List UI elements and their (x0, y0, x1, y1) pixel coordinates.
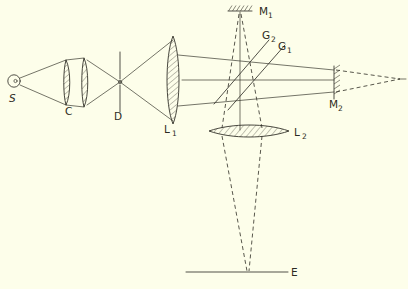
optical-diagram-canvas: S C D L 1 L 2 M 1 M 2 G 2 G 1 E (0, 0, 408, 289)
label-condenser: C (65, 105, 72, 117)
label-grating1-sub: 1 (287, 46, 292, 55)
label-lens1-sub: 1 (172, 129, 177, 138)
label-mirror2: M 2 (329, 98, 343, 113)
label-lens2-main: L (294, 126, 300, 138)
label-grating2: G 2 (262, 29, 276, 44)
label-source: S (9, 92, 16, 104)
label-mirror2-sub: 2 (338, 104, 343, 113)
ray-bundle-diaphragm-to-lens1 (120, 40, 173, 121)
label-lens1: L 1 (164, 123, 177, 138)
label-grating2-main: G (262, 29, 270, 41)
label-mirror1-main: M (259, 5, 268, 17)
virtual-ray-bundle-right (336, 70, 406, 92)
label-mirror2-main: M (329, 98, 338, 110)
ray-bundle-lens2-to-screen (222, 136, 262, 271)
ray-bundle-condenser-to-diaphragm (87, 60, 120, 105)
label-grating2-sub: 2 (271, 35, 276, 44)
ray-bundle-collimated-to-mirror2 (178, 55, 334, 106)
mirror-M1-top (228, 6, 252, 12)
label-mirror1: M 1 (259, 5, 273, 20)
label-diaphragm: D (114, 110, 122, 122)
label-screen: E (291, 266, 298, 278)
label-mirror1-sub: 1 (268, 11, 273, 20)
projection-lens-L2 (205, 120, 295, 144)
label-lens2: L 2 (294, 126, 307, 141)
label-lens1-main: L (164, 123, 170, 135)
light-source (8, 75, 20, 87)
optical-diagram-figure: S C D L 1 L 2 M 1 M 2 G 2 G 1 E (0, 0, 408, 289)
label-grating1-main: G (278, 40, 286, 52)
label-lens2-sub: 2 (302, 132, 307, 141)
ray-bundle-source-to-condenser (20, 60, 66, 105)
label-grating1: G 1 (278, 40, 292, 55)
